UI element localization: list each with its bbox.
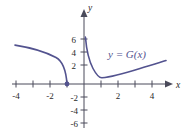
- y-axis-arrow: [81, 9, 88, 17]
- x-axis-arrow: [165, 81, 173, 88]
- curve-left-branch: [15, 45, 67, 84]
- x-tick-label-pos4: 4: [150, 91, 155, 101]
- graph-figure: -4 -2 2 4 6 4 2 -2 -4 -6 x y y = G(x): [0, 0, 189, 136]
- x-tick-label-neg2: -2: [46, 91, 54, 101]
- y-tick-label-neg2: -2: [71, 93, 79, 103]
- left-branch-endpoint-dot: [65, 82, 70, 87]
- y-tick-label-neg4: -4: [71, 106, 79, 116]
- coordinate-plane-svg: -4 -2 2 4 6 4 2 -2 -4 -6 x y y = G(x): [0, 0, 189, 136]
- y-tick-label-neg6: -6: [71, 119, 79, 129]
- y-tick-label-4: 4: [72, 48, 77, 58]
- x-tick-label-neg4: -4: [12, 91, 20, 101]
- y-axis-label: y: [87, 3, 93, 13]
- y-tick-label-6: 6: [72, 35, 77, 45]
- curve-equation-label: y = G(x): [107, 48, 146, 61]
- x-tick-label-pos2: 2: [116, 91, 121, 101]
- y-tick-label-2: 2: [72, 61, 77, 71]
- x-axis-label: x: [175, 80, 181, 90]
